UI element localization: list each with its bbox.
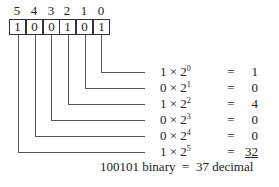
connector-horizontal-bit5: [18, 152, 145, 153]
connector-horizontal-bit0: [101, 72, 145, 73]
bit-position-3: 3: [43, 4, 59, 18]
connector-vertical-bit1: [85, 35, 86, 89]
equation-row-bit4: 0 × 24=0: [160, 129, 258, 143]
equation-row-bit3: 0 × 23=0: [160, 113, 258, 127]
bit-cell-1: 0: [76, 19, 93, 35]
connector-vertical-bit3: [51, 35, 52, 121]
bit-position-5: 5: [9, 4, 25, 18]
equation-row-bit5: 1 × 25=32: [160, 145, 258, 159]
decimal-value: 37 decimal: [196, 159, 253, 174]
bit-cell-5: 1: [9, 19, 26, 35]
bit-position-2: 2: [59, 4, 75, 18]
bit-cell-3: 0: [43, 19, 60, 35]
connector-horizontal-bit4: [35, 136, 145, 137]
connector-vertical-bit2: [68, 35, 69, 105]
connector-vertical-bit5: [18, 35, 19, 153]
connector-vertical-bit4: [35, 35, 36, 137]
bit-position-0: 0: [93, 4, 109, 18]
bit-position-4: 4: [26, 4, 42, 18]
bit-position-1: 1: [76, 4, 92, 18]
equation-row-bit0: 1 × 20=1: [160, 65, 258, 79]
connector-horizontal-bit3: [51, 120, 145, 121]
connector-vertical-bit0: [101, 35, 102, 73]
connector-horizontal-bit1: [85, 88, 145, 89]
total-equals: =: [179, 160, 193, 174]
binary-value: 100101 binary: [100, 159, 175, 174]
bit-cell-0: 1: [93, 19, 110, 35]
bit-cell-2: 1: [59, 19, 76, 35]
connector-horizontal-bit2: [68, 104, 145, 105]
bit-cell-4: 0: [26, 19, 43, 35]
equation-row-bit2: 1 × 22=4: [160, 97, 258, 111]
equation-row-bit1: 0 × 21=0: [160, 81, 258, 95]
total-line: 100101 binary = 37 decimal: [100, 160, 253, 174]
